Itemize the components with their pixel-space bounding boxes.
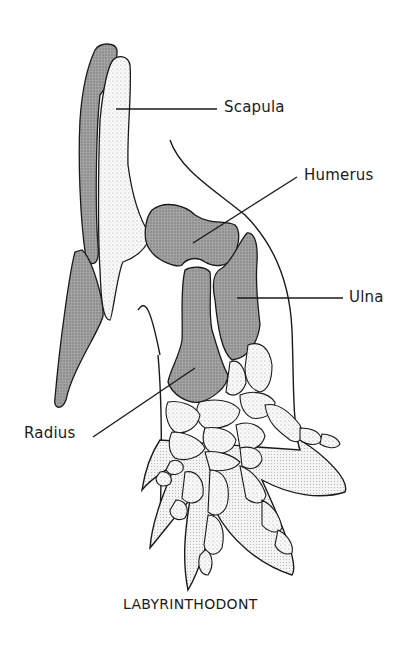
scapula-label: Scapula: [224, 100, 285, 115]
figure-caption: LABYRINTHODONT: [123, 596, 258, 612]
radius-label: Radius: [24, 426, 76, 441]
scapula-bone: [99, 57, 151, 320]
ulna-label: Ulna: [349, 290, 384, 305]
humerus-label: Humerus: [304, 168, 374, 183]
labyrinthodont-forelimb-diagram: Scapula Humerus Ulna Radius LABYRINTHODO…: [0, 0, 413, 648]
humerus-bone: [145, 205, 238, 266]
forelimb-illustration: [0, 0, 413, 648]
clavicle-bone: [55, 250, 103, 407]
